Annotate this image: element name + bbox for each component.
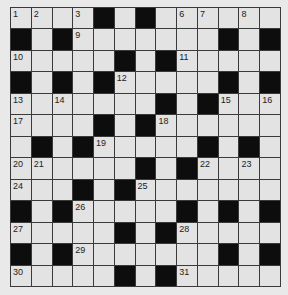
answer-cell[interactable] <box>73 158 93 178</box>
answer-cell[interactable] <box>260 266 280 286</box>
answer-cell[interactable] <box>239 72 259 92</box>
answer-cell[interactable] <box>177 244 197 264</box>
answer-cell[interactable] <box>136 29 156 49</box>
answer-cell[interactable] <box>156 29 176 49</box>
answer-cell[interactable] <box>219 137 239 157</box>
answer-cell[interactable] <box>53 158 73 178</box>
answer-cell[interactable] <box>177 72 197 92</box>
answer-cell[interactable] <box>32 51 52 71</box>
answer-cell[interactable] <box>260 180 280 200</box>
answer-cell[interactable]: 1 <box>11 8 31 28</box>
answer-cell[interactable] <box>239 115 259 135</box>
answer-cell[interactable] <box>53 115 73 135</box>
answer-cell[interactable] <box>94 94 114 114</box>
answer-cell[interactable]: 15 <box>219 94 239 114</box>
answer-cell[interactable] <box>73 51 93 71</box>
answer-cell[interactable] <box>115 94 135 114</box>
answer-cell[interactable]: 30 <box>11 266 31 286</box>
answer-cell[interactable] <box>115 244 135 264</box>
answer-cell[interactable] <box>239 94 259 114</box>
answer-cell[interactable] <box>219 51 239 71</box>
answer-cell[interactable] <box>260 51 280 71</box>
answer-cell[interactable]: 29 <box>73 244 93 264</box>
answer-cell[interactable] <box>177 29 197 49</box>
answer-cell[interactable] <box>260 115 280 135</box>
answer-cell[interactable] <box>94 51 114 71</box>
answer-cell[interactable] <box>136 51 156 71</box>
answer-cell[interactable]: 17 <box>11 115 31 135</box>
answer-cell[interactable] <box>198 51 218 71</box>
answer-cell[interactable] <box>198 72 218 92</box>
answer-cell[interactable] <box>156 158 176 178</box>
answer-cell[interactable]: 6 <box>177 8 197 28</box>
answer-cell[interactable] <box>260 158 280 178</box>
answer-cell[interactable]: 23 <box>239 158 259 178</box>
answer-cell[interactable] <box>53 8 73 28</box>
answer-cell[interactable] <box>219 8 239 28</box>
answer-cell[interactable] <box>136 94 156 114</box>
answer-cell[interactable] <box>115 158 135 178</box>
answer-cell[interactable]: 12 <box>115 72 135 92</box>
answer-cell[interactable]: 14 <box>53 94 73 114</box>
answer-cell[interactable] <box>198 223 218 243</box>
answer-cell[interactable] <box>94 244 114 264</box>
answer-cell[interactable] <box>53 266 73 286</box>
answer-cell[interactable] <box>177 94 197 114</box>
answer-cell[interactable] <box>219 180 239 200</box>
answer-cell[interactable] <box>239 244 259 264</box>
answer-cell[interactable] <box>32 29 52 49</box>
answer-cell[interactable] <box>239 201 259 221</box>
answer-cell[interactable] <box>73 223 93 243</box>
answer-cell[interactable] <box>94 180 114 200</box>
answer-cell[interactable] <box>32 94 52 114</box>
answer-cell[interactable] <box>115 29 135 49</box>
answer-cell[interactable] <box>53 223 73 243</box>
answer-cell[interactable] <box>198 115 218 135</box>
answer-cell[interactable] <box>239 180 259 200</box>
answer-cell[interactable] <box>239 51 259 71</box>
answer-cell[interactable]: 24 <box>11 180 31 200</box>
answer-cell[interactable]: 28 <box>177 223 197 243</box>
answer-cell[interactable] <box>156 180 176 200</box>
answer-cell[interactable] <box>260 137 280 157</box>
answer-cell[interactable] <box>11 137 31 157</box>
answer-cell[interactable] <box>156 8 176 28</box>
answer-cell[interactable] <box>156 244 176 264</box>
answer-cell[interactable]: 31 <box>177 266 197 286</box>
answer-cell[interactable] <box>53 180 73 200</box>
answer-cell[interactable] <box>239 266 259 286</box>
answer-cell[interactable] <box>32 244 52 264</box>
answer-cell[interactable]: 7 <box>198 8 218 28</box>
answer-cell[interactable]: 9 <box>73 29 93 49</box>
answer-cell[interactable] <box>73 115 93 135</box>
answer-cell[interactable] <box>219 115 239 135</box>
answer-cell[interactable] <box>136 201 156 221</box>
answer-cell[interactable] <box>177 115 197 135</box>
answer-cell[interactable] <box>239 223 259 243</box>
answer-cell[interactable] <box>53 137 73 157</box>
answer-cell[interactable]: 22 <box>198 158 218 178</box>
answer-cell[interactable] <box>73 266 93 286</box>
answer-cell[interactable] <box>136 72 156 92</box>
answer-cell[interactable] <box>198 266 218 286</box>
answer-cell[interactable] <box>115 137 135 157</box>
answer-cell[interactable] <box>115 115 135 135</box>
answer-cell[interactable]: 18 <box>156 115 176 135</box>
answer-cell[interactable]: 26 <box>73 201 93 221</box>
answer-cell[interactable]: 19 <box>94 137 114 157</box>
answer-cell[interactable]: 3 <box>73 8 93 28</box>
answer-cell[interactable] <box>177 137 197 157</box>
answer-cell[interactable]: 2 <box>32 8 52 28</box>
answer-cell[interactable] <box>32 180 52 200</box>
answer-cell[interactable]: 10 <box>11 51 31 71</box>
answer-cell[interactable] <box>94 158 114 178</box>
answer-cell[interactable] <box>53 51 73 71</box>
answer-cell[interactable] <box>94 266 114 286</box>
answer-cell[interactable] <box>94 223 114 243</box>
answer-cell[interactable] <box>136 137 156 157</box>
answer-cell[interactable] <box>136 223 156 243</box>
answer-cell[interactable]: 13 <box>11 94 31 114</box>
answer-cell[interactable] <box>115 8 135 28</box>
answer-cell[interactable] <box>32 72 52 92</box>
answer-cell[interactable] <box>32 115 52 135</box>
